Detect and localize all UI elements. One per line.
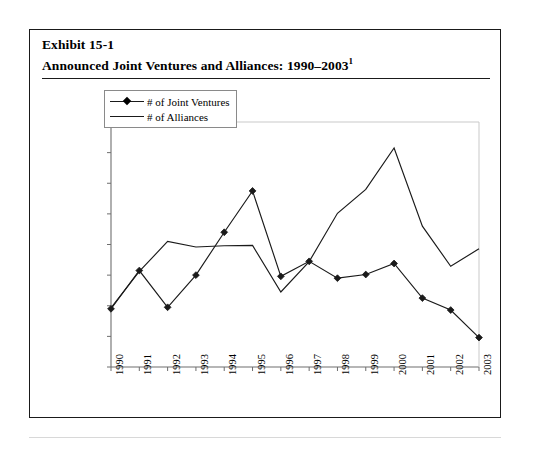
x-axis-tick-label: 1996: [285, 354, 295, 375]
x-axis-tick-label: 1991: [143, 354, 153, 375]
page-bottom-rule: [29, 437, 501, 438]
legend-item-alliances: # of Alliances: [109, 109, 230, 124]
x-axis-tick-label: 2001: [426, 354, 436, 375]
chart-legend: # of Joint Ventures # of Alliances: [104, 90, 237, 128]
exhibit-page: Exhibit 15-1 Announced Joint Ventures an…: [0, 0, 534, 454]
exhibit-title: Announced Joint Ventures and Alliances: …: [42, 53, 490, 74]
plain-line-icon: [109, 110, 145, 123]
x-axis-tick-label: 2000: [398, 354, 408, 375]
exhibit-frame: Exhibit 15-1 Announced Joint Ventures an…: [29, 29, 501, 418]
x-axis-tick-label: 1992: [172, 354, 182, 375]
exhibit-title-text: Announced Joint Ventures and Alliances: …: [42, 58, 349, 73]
exhibit-title-footnote-marker: 1: [349, 56, 354, 66]
legend-item-joint-ventures: # of Joint Ventures: [109, 94, 230, 109]
chart-area: 8,0007,0006,0005,0004,0003,0002,0001,000…: [42, 86, 490, 411]
x-axis-tick-label: 1993: [200, 354, 210, 375]
legend-label-alliances: # of Alliances: [145, 111, 208, 123]
x-axis-tick-label: 1995: [257, 354, 267, 375]
x-axis-tick-label: 2003: [483, 354, 493, 375]
x-axis-tick-label: 1998: [341, 354, 351, 375]
x-axis-tick-label: 2002: [455, 354, 465, 375]
x-axis-tick-label: 1990: [115, 354, 125, 375]
legend-label-joint-ventures: # of Joint Ventures: [145, 96, 230, 108]
x-axis-tick-label: 1997: [313, 354, 323, 375]
exhibit-label: Exhibit 15-1: [42, 36, 490, 53]
exhibit-header: Exhibit 15-1 Announced Joint Ventures an…: [42, 36, 490, 74]
diamond-marker-icon: [109, 95, 145, 108]
x-axis-tick-labels: 1990199119921993199419951996199719981999…: [42, 86, 490, 411]
header-divider: [42, 78, 490, 79]
x-axis-tick-label: 1999: [370, 354, 380, 375]
x-axis-tick-label: 1994: [228, 354, 238, 375]
